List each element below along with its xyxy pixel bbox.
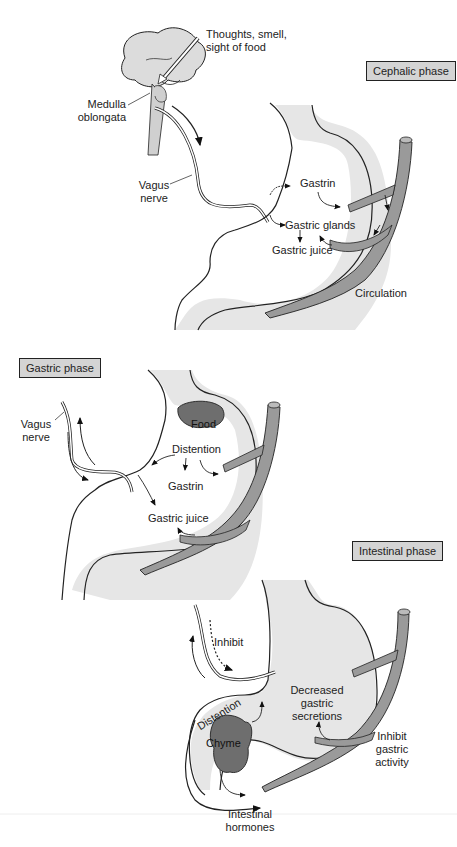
stimulus-label: Thoughts, smell, sight of food [206, 28, 287, 54]
medulla-line-2: oblongata [74, 111, 126, 124]
food-label: Food [191, 418, 216, 431]
stimulus-line-2: sight of food [206, 41, 287, 54]
inhibit-activity-label: Inhibit gastric activity [370, 730, 414, 769]
hormones-line-1: Intestinal [222, 808, 278, 821]
gastric-distention-label: Distention [172, 443, 221, 456]
decreased-line-1: Decreased [283, 684, 351, 697]
gastric-vagus-label: Vagus nerve [18, 418, 54, 444]
decreased-line-3: secretions [283, 710, 351, 723]
gastric-gastrin-label: Gastrin [168, 480, 203, 493]
diagram-canvas [0, 0, 457, 847]
medulla-label: Medulla oblongata [74, 98, 126, 124]
medulla-line-1: Medulla [74, 98, 126, 111]
circulation-label: Circulation [355, 287, 407, 300]
gastric-phase-label: Gastric phase [19, 358, 101, 378]
inhibit-activity-line-1: Inhibit [370, 730, 414, 743]
cephalic-gastrin-label: Gastrin [300, 177, 335, 190]
vagus-line-2: nerve [18, 431, 54, 444]
intestinal-phase-label: Intestinal phase [352, 541, 443, 561]
chyme-label: Chyme [206, 737, 241, 750]
vagus-line-1: Vagus [18, 418, 54, 431]
cephalic-gastric-juice-label: Gastric juice [272, 244, 333, 257]
hormones-line-2: hormones [222, 821, 278, 834]
vagus-line-1: Vagus [134, 179, 174, 192]
gastric-juice-label: Gastric juice [148, 512, 209, 525]
intestinal-hormones-label: Intestinal hormones [222, 808, 278, 834]
inhibit-activity-line-2: gastric [370, 743, 414, 756]
cephalic-phase-label: Cephalic phase [366, 61, 456, 81]
stimulus-line-1: Thoughts, smell, [206, 28, 287, 41]
cephalic-vagus-label: Vagus nerve [134, 179, 174, 205]
inhibit-activity-line-3: activity [370, 756, 414, 769]
vagus-line-2: nerve [134, 192, 174, 205]
gastric-glands-label: Gastric glands [285, 219, 355, 232]
inhibit-label: Inhibit [214, 636, 243, 649]
decreased-secretions-label: Decreased gastric secretions [283, 684, 351, 723]
decreased-line-2: gastric [283, 697, 351, 710]
